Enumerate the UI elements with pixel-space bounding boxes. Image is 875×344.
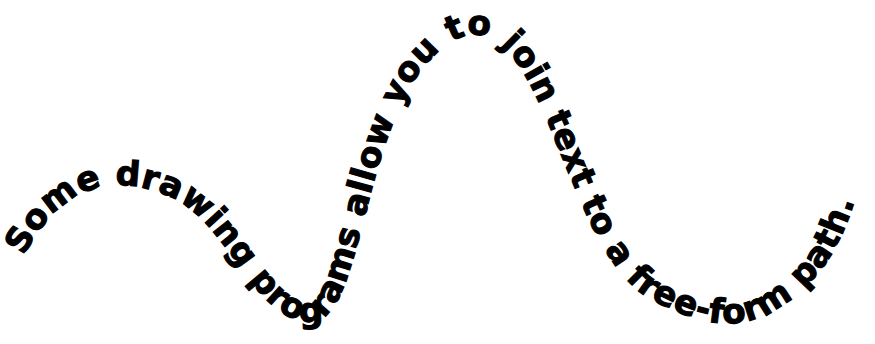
- curved-text-artwork: Some drawing programs allow you to join …: [0, 0, 875, 344]
- curved-text-label: Some drawing programs allow you to join …: [0, 2, 862, 332]
- artwork-canvas: Some drawing programs allow you to join …: [0, 0, 875, 344]
- curved-text-content: Some drawing programs allow you to join …: [0, 2, 862, 332]
